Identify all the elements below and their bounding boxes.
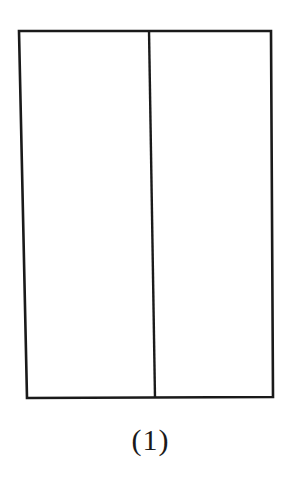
outer-rectangle <box>19 31 273 398</box>
vertical-divider <box>149 30 155 398</box>
diagram-canvas <box>0 0 301 485</box>
figure-caption: (1) <box>0 423 301 457</box>
